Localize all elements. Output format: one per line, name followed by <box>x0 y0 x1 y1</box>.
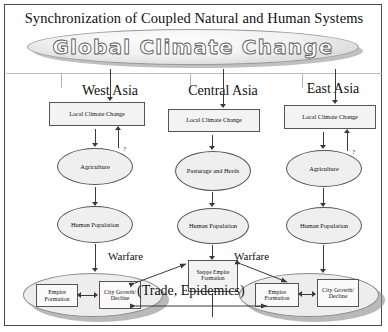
label-trade-epidemics: (Trade, Epidemics) <box>137 283 245 299</box>
arrowhead-east-city <box>312 291 316 297</box>
box-west-city-growth-decline: City Growth/ Decline <box>99 281 141 309</box>
header-divider <box>6 73 382 74</box>
box-east-local-climate-change: Local Climate Change <box>284 105 376 129</box>
arrowhead-east-feedback <box>344 129 350 133</box>
label-warfare-west: Warfare <box>108 250 143 262</box>
box-west-local-climate-change: Local Climate Change <box>49 102 145 126</box>
node-west-agriculture: Agriculture <box>57 148 133 185</box>
arrow-banner-to-central-climate <box>223 69 224 105</box>
figure-title: Synchronization of Coupled Natural and H… <box>5 10 383 27</box>
arrowhead-east-agriculture <box>320 145 326 149</box>
region-heading-east-asia: East Asia <box>288 81 378 97</box>
arrow-banner-to-east-climate <box>335 69 336 101</box>
label-warfare-east: Warfare <box>234 250 269 262</box>
arrow-banner-to-west-climate <box>110 69 111 98</box>
box-west-empire-formation: Empire Formation <box>36 284 78 307</box>
node-central-pasturage-and-herds: Pasturage and Herds <box>175 151 251 191</box>
box-central-local-climate-change: Local Climate Change <box>168 109 260 132</box>
node-east-human-population: Human Population <box>286 207 362 244</box>
arrow-west-agriculture-feedback <box>118 129 119 148</box>
arrow-east-agriculture-feedback <box>347 132 348 151</box>
arrow-west-climate-to-agriculture <box>95 129 96 144</box>
arrowhead-central-climate <box>220 104 226 108</box>
west-feedback-question-mark: ? <box>123 145 126 153</box>
banner-ellipse: Global Climate Change <box>27 29 359 65</box>
arrowhead-central-pasturage <box>209 146 215 150</box>
arrowhead-west-city <box>94 292 98 298</box>
arrowhead-east-climate <box>332 100 338 104</box>
node-west-human-population: Human Population <box>57 206 133 243</box>
arrowhead-west-feedback <box>115 126 121 130</box>
box-east-city-growth-decline: City Growth/ Decline <box>317 279 359 307</box>
arrow-east-climate-to-agriculture <box>323 132 324 146</box>
node-east-agriculture: Agriculture <box>286 150 362 187</box>
arrow-west-population-to-outcome <box>95 244 96 269</box>
arrowhead-west-climate <box>107 97 113 101</box>
arrowhead-west-outcome <box>92 268 98 272</box>
arrowhead-central-population <box>209 203 215 207</box>
node-central-human-population: Human Population <box>177 208 249 244</box>
arrowhead-west-agriculture <box>92 143 98 147</box>
arrow-east-agriculture-to-population <box>323 188 324 204</box>
global-climate-change-banner: Global Climate Change <box>27 29 363 69</box>
arrowhead-west-empire <box>77 292 81 298</box>
east-feedback-question-mark: ? <box>352 148 355 156</box>
banner-label: Global Climate Change <box>52 35 333 59</box>
diagram-frame: Synchronization of Coupled Natural and H… <box>4 4 382 326</box>
arrow-west-agriculture-to-population <box>95 187 96 203</box>
box-east-empire-formation: Empire Formation <box>255 283 299 307</box>
arrow-east-population-to-outcome <box>323 245 324 270</box>
arrowhead-east-empire <box>298 291 302 297</box>
